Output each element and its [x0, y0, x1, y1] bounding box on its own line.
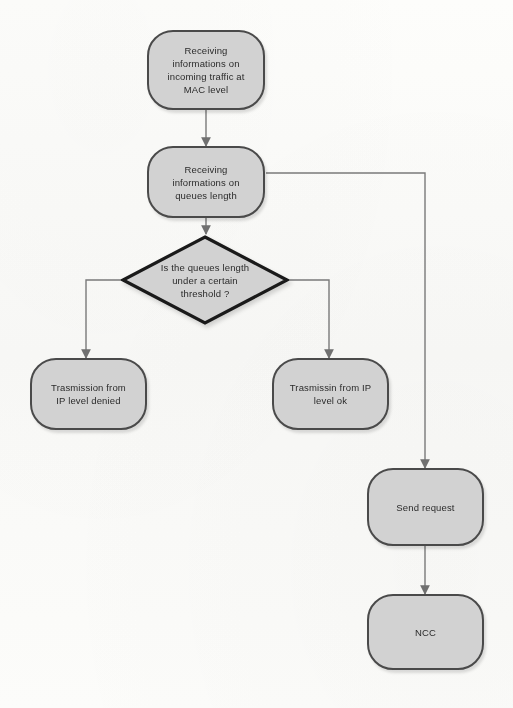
edge-decision-to-denied [86, 280, 120, 358]
node-label: Is the queues length under a certain thr… [120, 234, 290, 326]
node-send-request[interactable]: Send request [367, 468, 484, 546]
flowchart-canvas: Receiving informations on incoming traff… [0, 0, 513, 708]
node-decision-threshold[interactable]: Is the queues length under a certain thr… [120, 234, 290, 326]
node-transmission-ok[interactable]: Trasmissin from IP level ok [272, 358, 389, 430]
node-ncc[interactable]: NCC [367, 594, 484, 670]
node-label: Trasmissin from IP level ok [283, 381, 379, 407]
node-label: Receiving informations on incoming traff… [160, 44, 251, 96]
node-label: Trasmission from IP level denied [44, 381, 133, 407]
node-label: Receiving informations on queues length [165, 163, 246, 202]
node-label: NCC [408, 626, 443, 639]
node-receiving-mac[interactable]: Receiving informations on incoming traff… [147, 30, 265, 110]
edge-decision-to-ok [290, 280, 329, 358]
node-transmission-denied[interactable]: Trasmission from IP level denied [30, 358, 147, 430]
node-receiving-queues[interactable]: Receiving informations on queues length [147, 146, 265, 218]
node-label: Send request [389, 501, 461, 514]
